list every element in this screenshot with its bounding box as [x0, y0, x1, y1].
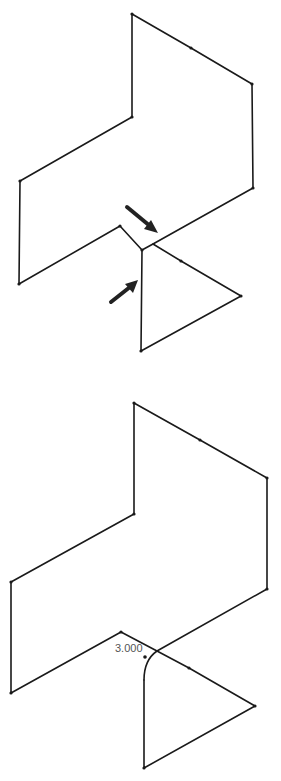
top-sketch-polyline	[19, 14, 253, 284]
vertex	[130, 12, 133, 15]
fillet-radius-dimension[interactable]: 3.000	[115, 642, 143, 654]
sketch-figure: 3.000	[0, 0, 281, 781]
vertex	[189, 46, 192, 49]
vertex	[142, 766, 145, 769]
vertex	[132, 401, 135, 404]
upper-pointer-arrow	[127, 207, 158, 233]
vertex	[265, 476, 268, 479]
vertex	[130, 115, 133, 118]
vertex	[17, 282, 20, 285]
bottom-triangle-edges	[144, 651, 255, 768]
vertex	[9, 580, 12, 583]
vertex	[139, 349, 142, 352]
bottom-sketch: 3.000	[9, 401, 268, 769]
vertex	[179, 259, 182, 262]
vertex	[118, 224, 121, 227]
lower-pointer-arrow	[111, 280, 138, 302]
vertex	[239, 294, 242, 297]
vertex	[132, 512, 135, 515]
vertex	[253, 704, 256, 707]
vertex	[9, 691, 12, 694]
vertex	[140, 248, 143, 251]
vertex	[265, 587, 268, 590]
vertex	[187, 666, 190, 669]
top-triangle-edges	[141, 244, 241, 351]
vertex	[198, 438, 201, 441]
top-sketch	[17, 12, 254, 352]
vertex	[251, 186, 254, 189]
fillet-center-marker	[143, 655, 147, 659]
vertex	[119, 630, 122, 633]
vertex	[18, 179, 21, 182]
vertex	[250, 82, 253, 85]
fillet-arc	[144, 651, 157, 680]
